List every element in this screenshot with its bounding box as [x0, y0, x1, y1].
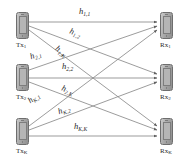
- mobile-phone-icon: [160, 12, 173, 39]
- node-label-tx1: Tx1: [16, 41, 29, 50]
- channel-label-hKK: hK,K: [74, 122, 87, 132]
- channel-line-h12: [29, 26, 157, 74]
- node-rxK[interactable]: RxK: [160, 118, 173, 156]
- node-txK[interactable]: TxK: [16, 118, 29, 156]
- node-label-rx1: Rx1: [160, 41, 173, 50]
- node-tx1[interactable]: Tx1: [16, 12, 29, 50]
- channel-line-h21: [29, 26, 157, 70]
- mobile-phone-icon: [160, 64, 173, 91]
- mobile-phone-icon: [16, 12, 29, 39]
- channel-label-h22: h2,2: [62, 62, 73, 72]
- node-label-txK: TxK: [16, 147, 29, 156]
- mobile-phone-icon: [16, 64, 29, 91]
- channel-label-h11: h1,1: [79, 7, 90, 17]
- node-rx1[interactable]: Rx1: [160, 12, 173, 50]
- node-label-rxK: RxK: [160, 147, 173, 156]
- node-label-rx2: Rx2: [160, 93, 173, 102]
- mobile-phone-icon: [16, 118, 29, 145]
- mobile-phone-icon: [160, 118, 173, 145]
- interference-channel-diagram: Tx1 Tx2 TxK Rx1 Rx2 RxK h1,1 h1,: [0, 0, 189, 163]
- node-rx2[interactable]: Rx2: [160, 64, 173, 102]
